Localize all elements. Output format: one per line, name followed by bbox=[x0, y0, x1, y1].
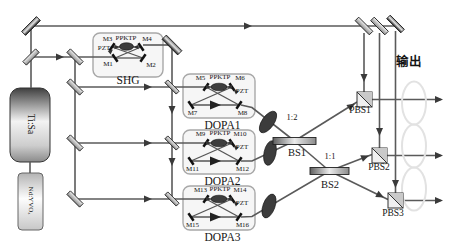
arrowhead bbox=[244, 23, 252, 30]
pbs3-label: PBS3 bbox=[377, 209, 409, 219]
output-mode-ellipses bbox=[402, 82, 426, 211]
bs1-label: BS1 bbox=[283, 147, 311, 158]
dopa1-pzt-label: PZT bbox=[233, 88, 251, 95]
arrowhead bbox=[169, 106, 176, 114]
dopa1-crystal-label: PPKTP bbox=[206, 74, 234, 81]
arrowhead bbox=[144, 196, 152, 203]
arrowhead bbox=[392, 180, 399, 188]
dopa3-name-label: DOPA3 bbox=[197, 231, 248, 243]
arrowhead bbox=[435, 197, 443, 204]
ti-sapphire-label: Ti:Sa bbox=[25, 87, 35, 161]
bs2-plate bbox=[310, 168, 349, 175]
shg-crystal-label: PPKTP bbox=[112, 35, 140, 42]
dopa2-pzt-label: PZT bbox=[233, 144, 251, 151]
dopa3-m14-label: M14 bbox=[231, 187, 249, 194]
bs2-ratio-label: 1:1 bbox=[320, 152, 340, 161]
optics-schematic: Ti:Sa Nd:YVO₄ M3 PPKTP M4 PZT M1 M2 SHG … bbox=[0, 0, 459, 249]
dopa3-m16-label: M16 bbox=[234, 222, 251, 229]
pbs3-cube bbox=[388, 193, 403, 208]
dopa1-crystal bbox=[211, 83, 227, 91]
bs1-ratio-label: 1:2 bbox=[282, 113, 302, 122]
shg-m4-label: M4 bbox=[139, 36, 155, 43]
output-label: 输出 bbox=[389, 56, 429, 69]
dopa1-m6-label: M6 bbox=[231, 75, 249, 82]
dopa3-m15-label: M15 bbox=[184, 222, 201, 229]
lens-dopa1 bbox=[256, 108, 280, 135]
arrowhead bbox=[435, 96, 443, 103]
arrowhead bbox=[361, 74, 368, 82]
dopa3-pzt-label: PZT bbox=[233, 200, 251, 207]
nd-yvo4-label: Nd:YVO₄ bbox=[27, 172, 34, 229]
dopa2-crystal bbox=[211, 139, 227, 147]
dopa2-m10-label: M10 bbox=[231, 131, 249, 138]
mode-ellipse-3 bbox=[402, 168, 426, 211]
dopa2-m11-label: M11 bbox=[184, 166, 201, 173]
arrowhead bbox=[435, 152, 443, 159]
pbs2-cube bbox=[372, 148, 387, 163]
shg-name-label: SHG bbox=[108, 74, 148, 86]
pbs2-label: PBS2 bbox=[363, 163, 395, 173]
arrowhead bbox=[376, 128, 383, 136]
dopa3-crystal bbox=[211, 195, 227, 203]
lenses bbox=[256, 108, 280, 219]
shg-m2-label: M2 bbox=[143, 62, 159, 69]
pbs1-label: PBS1 bbox=[344, 106, 376, 116]
dopa3-crystal-label: PPKTP bbox=[206, 186, 234, 193]
dopa1-m7-label: M7 bbox=[184, 110, 201, 117]
shg-m1-label: M1 bbox=[100, 61, 116, 68]
arrowhead bbox=[360, 152, 370, 161]
arrowhead bbox=[144, 140, 152, 147]
lens-dopa3 bbox=[259, 192, 279, 220]
mirror-lo-3 bbox=[387, 15, 405, 33]
dopa2-m12-label: M12 bbox=[234, 166, 251, 173]
dopa1-m8-label: M8 bbox=[234, 110, 251, 117]
shg-crystal bbox=[120, 43, 134, 51]
bs2-label: BS2 bbox=[316, 179, 344, 190]
bs1-plate bbox=[273, 138, 316, 145]
arrowhead bbox=[375, 191, 385, 201]
mode-ellipse-1 bbox=[402, 82, 426, 125]
mode-ellipse-2 bbox=[402, 125, 426, 168]
arrowhead bbox=[169, 158, 176, 166]
arrowhead bbox=[56, 54, 64, 61]
shg-pzt-label: PZT bbox=[95, 45, 113, 52]
dopa2-crystal-label: PPKTP bbox=[206, 130, 234, 137]
